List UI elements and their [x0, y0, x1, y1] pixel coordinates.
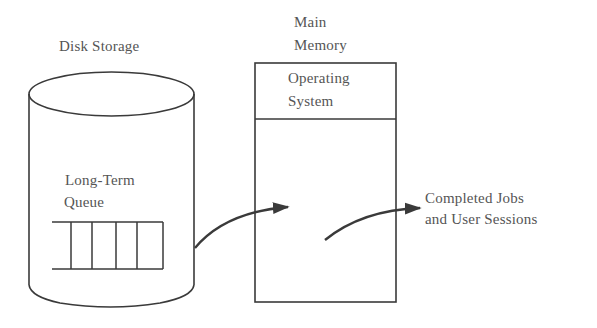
os-label-line2: System: [288, 91, 333, 112]
completed-jobs-line1: Completed Jobs: [425, 188, 524, 209]
disk-storage-title: Disk Storage: [59, 36, 139, 57]
long-term-queue: [52, 222, 163, 269]
main-memory-title-line2: Memory: [294, 35, 347, 56]
arrow-queue-to-memory: [195, 207, 288, 248]
main-memory-title-line1: Main: [294, 12, 326, 33]
os-label-line1: Operating: [288, 68, 350, 89]
completed-jobs-line2: and User Sessions: [425, 209, 538, 230]
queue-label-line2: Queue: [64, 192, 104, 213]
queue-label-line1: Long-Term: [65, 170, 135, 191]
cylinder-top-ellipse: [29, 72, 194, 116]
cylinder-bottom-curve: [29, 285, 194, 307]
arrow-memory-to-completed: [325, 208, 420, 240]
